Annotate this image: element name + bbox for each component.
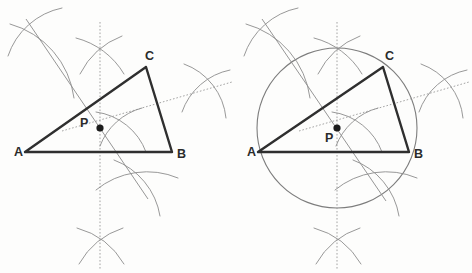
- arc-bc-right-1: [421, 64, 463, 118]
- perpendicular-bisector-ac: [262, 19, 386, 201]
- arc-bc-right-2: [182, 70, 230, 112]
- arc-ab-lower-1: [314, 228, 361, 264]
- arc-bc-left-2: [100, 108, 142, 146]
- circumcenter-point-p: [96, 124, 103, 131]
- left-panel: A B C P: [8, 8, 232, 270]
- arc-ab-lower-1: [77, 228, 124, 264]
- bisector-ab-arcs: [314, 36, 362, 264]
- construction-drawing: A B C P: [0, 0, 472, 273]
- geometry-figure: A B C P: [0, 0, 472, 273]
- vertex-label-b: B: [177, 147, 186, 161]
- arc-ac-upper-2: [246, 24, 310, 98]
- triangle-abc: [25, 67, 172, 152]
- point-label-p: P: [80, 116, 88, 130]
- arc-ac-lower-2: [114, 160, 160, 216]
- arc-bc-right-1: [184, 64, 226, 118]
- arc-ab-lower-2: [79, 228, 123, 264]
- arc-ac-lower-2: [353, 160, 399, 216]
- arc-ac-upper-2: [10, 24, 74, 98]
- point-label-p: P: [325, 131, 333, 145]
- bisector-ac-arcs: [8, 8, 178, 216]
- arc-bc-left-2: [336, 108, 378, 146]
- vertex-label-b: B: [414, 147, 423, 161]
- arc-bc-right-2: [419, 70, 467, 112]
- circumcenter-point-p: [333, 124, 340, 131]
- vertex-label-a: A: [14, 145, 23, 159]
- vertex-label-a: A: [247, 145, 256, 159]
- vertex-label-c: C: [385, 49, 394, 63]
- bisector-ac-arcs: [244, 8, 417, 216]
- triangle-abc: [258, 67, 409, 152]
- arc-ab-lower-2: [316, 228, 360, 264]
- vertex-label-c: C: [145, 49, 154, 63]
- bisector-bc-arcs: [96, 64, 230, 152]
- right-panel: A B C P: [244, 8, 469, 270]
